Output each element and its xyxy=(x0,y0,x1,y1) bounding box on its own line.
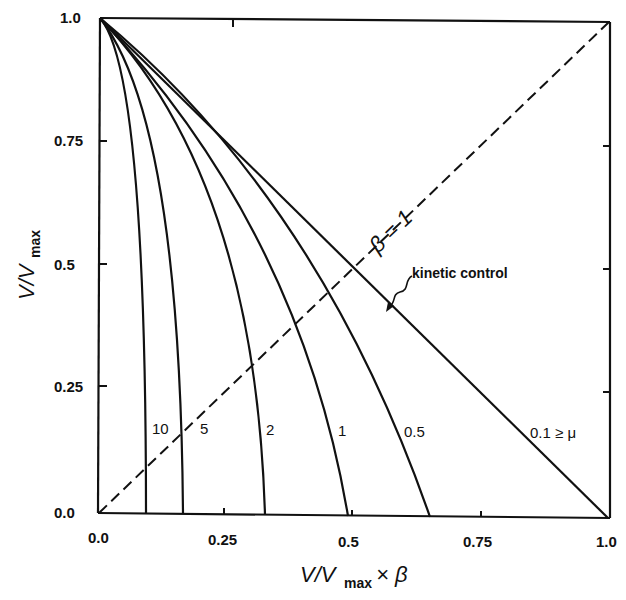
curve-label-10: 10 xyxy=(152,420,169,437)
y-tick-1: 1.0 xyxy=(60,9,81,26)
chart-svg: 1.0 0.75 0.5 0.25 0.0 0.0 0.25 0.5 0.75 … xyxy=(0,0,626,600)
x-tick-0: 0.0 xyxy=(88,529,109,546)
curve-mu-0_1 xyxy=(100,18,608,518)
x-tick-1: 1.0 xyxy=(596,533,617,550)
svg-text:max: max xyxy=(344,575,372,591)
y-tick-05: 0.5 xyxy=(54,256,75,273)
curve-label-05: 0.5 xyxy=(404,423,425,440)
y-axis-label: V/V max xyxy=(14,230,43,300)
x-tick-labels: 0.0 0.25 0.5 0.75 1.0 xyxy=(88,529,617,550)
svg-text:V/V: V/V xyxy=(300,562,338,587)
x-tick-075: 0.75 xyxy=(463,533,492,550)
svg-text:× β: × β xyxy=(376,562,408,587)
svg-text:V/V: V/V xyxy=(14,262,39,300)
x-tick-025: 0.25 xyxy=(208,531,237,548)
curve-label-2: 2 xyxy=(266,421,274,438)
kinetic-control-label: kinetic control xyxy=(412,265,508,281)
x-axis-label: V/V max × β xyxy=(300,562,408,591)
y-tick-labels: 1.0 0.75 0.5 0.25 0.0 xyxy=(54,9,83,521)
curve-mu-0_5 xyxy=(100,18,430,517)
curve-label-01: 0.1 ≥ μ xyxy=(530,424,576,441)
kinetic-control-arrow xyxy=(390,276,412,306)
y-tick-0: 0.0 xyxy=(54,504,75,521)
curve-label-5: 5 xyxy=(200,420,208,437)
y-tick-025: 0.25 xyxy=(54,378,83,395)
curve-mu-10 xyxy=(100,18,146,513)
svg-text:max: max xyxy=(27,230,43,258)
curve-label-1: 1 xyxy=(338,422,346,439)
x-tick-05: 0.5 xyxy=(338,533,359,550)
curves xyxy=(100,18,608,518)
y-tick-075: 0.75 xyxy=(54,132,83,149)
